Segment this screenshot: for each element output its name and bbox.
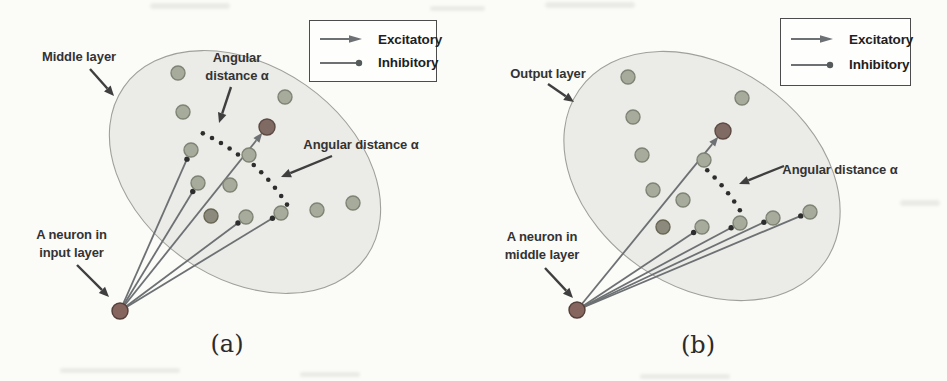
neuron — [621, 70, 635, 84]
neuron — [697, 153, 711, 167]
angular-arc-dot — [279, 194, 284, 199]
legend-box-b: Excitatory Inhibitory — [780, 18, 911, 86]
angular-arc-dot — [732, 199, 737, 204]
neuron — [176, 105, 190, 119]
legend-box-a: Excitatory Inhibitory — [309, 20, 437, 82]
pointer-arrow — [545, 268, 566, 291]
legend-row-inhibitory: Inhibitory — [318, 55, 428, 70]
neuron — [191, 176, 205, 190]
neuron — [735, 91, 749, 105]
excitatory-arrow-icon — [318, 33, 364, 45]
angular-distance-top-line2: distance α — [193, 67, 281, 85]
neuron — [278, 90, 292, 104]
inhibitory-label: Inhibitory — [378, 55, 439, 70]
neuron — [242, 148, 256, 162]
input-neuron-label: A neuron in input layer — [24, 226, 119, 263]
neuron — [310, 203, 324, 217]
neuron — [766, 211, 780, 225]
input-neuron-label-line2: input layer — [24, 244, 119, 262]
angular-arc-dot — [251, 163, 256, 168]
angular-distance-right-label-b: Angular distance α — [781, 161, 899, 179]
neuron — [646, 183, 660, 197]
source-neuron — [112, 303, 128, 319]
target-neuron — [259, 119, 275, 135]
angular-arc-dot — [285, 202, 290, 207]
angular-arc-dot — [259, 170, 264, 175]
legend-row-inhibitory: Inhibitory — [789, 57, 902, 72]
angular-arc-dot — [210, 136, 215, 141]
angular-arc-dot — [201, 131, 206, 136]
neuron — [635, 148, 649, 162]
angular-arc-dot — [273, 185, 278, 190]
figure: Middle layer Angular distance α Angular … — [0, 0, 947, 381]
shaded-neuron — [656, 220, 670, 234]
neuron — [346, 196, 360, 210]
inhibitory-line-icon — [789, 59, 835, 71]
neuron — [223, 178, 237, 192]
neuron — [626, 110, 640, 124]
pointer-arrow — [90, 69, 107, 89]
angular-arc-dot — [719, 183, 724, 188]
neuron — [274, 206, 288, 220]
middle-layer-label: Middle layer — [34, 48, 124, 66]
angular-arc-dot — [266, 178, 271, 183]
angular-distance-top-label: Angular distance α — [193, 49, 281, 86]
neuron — [695, 220, 709, 234]
neuron — [733, 216, 747, 230]
inhibitory-label: Inhibitory — [849, 57, 910, 72]
angular-arc-dot — [726, 191, 731, 196]
angular-arc-dot — [219, 141, 224, 146]
neuron — [239, 210, 253, 224]
inhibitory-line-icon — [318, 57, 364, 69]
neuron — [803, 205, 817, 219]
excitatory-label: Excitatory — [849, 32, 913, 47]
input-neuron-label-line1: A neuron in — [24, 226, 119, 244]
caption-a: (a) — [186, 330, 268, 358]
target-neuron — [715, 123, 731, 139]
source-neuron — [569, 302, 585, 318]
pointer-arrowhead — [563, 93, 574, 102]
pointer-arrow — [77, 265, 102, 290]
neuron — [676, 193, 690, 207]
caption-b: (b) — [657, 331, 739, 359]
excitatory-arrow-icon — [789, 33, 835, 45]
legend-row-excitatory: Excitatory — [789, 32, 902, 47]
pointer-arrow — [548, 84, 566, 96]
middle-neuron-label-line2: middle layer — [494, 246, 590, 264]
output-layer-label: Output layer — [503, 65, 593, 83]
angular-distance-top-line1: Angular — [193, 49, 281, 67]
middle-neuron-label-line1: A neuron in — [494, 228, 590, 246]
angular-arc-dot — [227, 146, 232, 151]
neuron — [171, 66, 185, 80]
angular-arc-dot — [712, 175, 717, 180]
neuron — [184, 143, 198, 157]
middle-neuron-label: A neuron in middle layer — [494, 228, 590, 265]
excitatory-label: Excitatory — [378, 32, 442, 47]
angular-distance-right-label-a: Angular distance α — [302, 136, 420, 154]
angular-arc-dot — [236, 152, 241, 157]
angular-arc-dot — [705, 168, 710, 173]
shaded-neuron — [204, 209, 218, 223]
legend-row-excitatory: Excitatory — [318, 32, 428, 47]
angular-arc-dot — [738, 208, 743, 213]
